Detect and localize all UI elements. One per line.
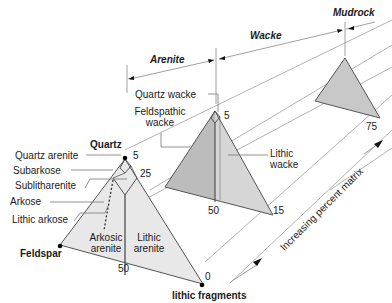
lithic-arenite-line1: Lithic bbox=[131, 232, 167, 243]
tick-arenite-quartz-5: 5 bbox=[133, 150, 139, 161]
lithic-fragments-vertex-label: lithic fragments bbox=[172, 290, 246, 301]
feldspathic-wacke-line2: wacke bbox=[130, 117, 190, 128]
mudrock-label: Mudrock bbox=[333, 7, 375, 18]
quartz-wacke-label: Quartz wacke bbox=[135, 89, 196, 100]
tick-matrix-75: 75 bbox=[366, 121, 377, 132]
arkosic-arenite-line1: Arkosic bbox=[88, 232, 124, 243]
lithic-arenite-label: Lithic arenite bbox=[131, 232, 167, 254]
subarkose-label: Subarkose bbox=[13, 165, 61, 176]
arkose-label: Arkose bbox=[10, 196, 41, 207]
lithic-wacke-line1: Lithic bbox=[270, 148, 298, 159]
feldspathic-wacke-line1: Feldspathic bbox=[130, 106, 190, 117]
mudrock-triangle bbox=[315, 58, 380, 118]
wacke-label: Wacke bbox=[250, 30, 282, 41]
sandstone-classification-diagram: Arenite Wacke Mudrock Quartz Feldspar li… bbox=[0, 0, 392, 303]
lithic-arenite-line2: arenite bbox=[131, 243, 167, 254]
arenite-label: Arenite bbox=[150, 54, 184, 65]
feldspathic-wacke-label: Feldspathic wacke bbox=[130, 106, 190, 128]
tick-wacke-quartz-5: 5 bbox=[224, 110, 230, 121]
tick-arenite-quartz-25: 25 bbox=[140, 168, 151, 179]
lithic-wacke-label: Lithic wacke bbox=[270, 148, 298, 170]
tick-matrix-0: 0 bbox=[205, 271, 211, 282]
quartz-arenite-label: Quartz arenite bbox=[15, 150, 78, 161]
tick-arenite-50: 50 bbox=[118, 263, 129, 274]
feldspar-vertex-label: Feldspar bbox=[20, 248, 62, 259]
lithic-arkose-label: Lithic arkose bbox=[12, 214, 68, 225]
tick-wacke-50: 50 bbox=[208, 205, 219, 216]
sublitharenite-label: Sublitharenite bbox=[15, 180, 76, 191]
arkosic-arenite-line2: arenite bbox=[88, 243, 124, 254]
lithic-wacke-line2: wacke bbox=[270, 159, 298, 170]
quartz-vertex-label: Quartz bbox=[90, 139, 122, 150]
arkosic-arenite-label: Arkosic arenite bbox=[88, 232, 124, 254]
tick-matrix-15: 15 bbox=[273, 205, 284, 216]
